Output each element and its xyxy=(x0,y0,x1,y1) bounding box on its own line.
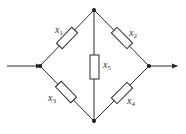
node-left xyxy=(38,64,42,68)
node-bottom xyxy=(92,119,96,123)
resistor-x3 xyxy=(55,81,76,102)
label-x5: x5 xyxy=(102,59,111,72)
bridge-diagram: x1 x2 x3 x4 x5 xyxy=(0,0,186,134)
label-x1: x1 xyxy=(54,24,63,37)
label-x2: x2 xyxy=(128,27,137,40)
node-right xyxy=(147,64,151,68)
label-x3: x3 xyxy=(47,92,56,105)
resistor-x5 xyxy=(90,55,99,79)
output-arrow-icon xyxy=(172,64,178,69)
label-x4: x4 xyxy=(126,95,135,108)
node-top xyxy=(92,8,96,12)
